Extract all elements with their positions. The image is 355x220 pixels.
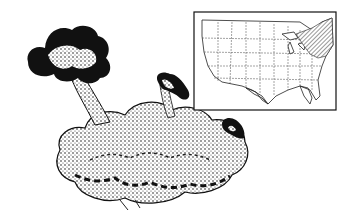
left-flower-cluster: [27, 26, 110, 84]
plant-illustration: [0, 0, 355, 220]
foliage-mass: [57, 102, 248, 210]
range-map-inset: [194, 12, 336, 110]
illustration-canvas: [0, 0, 355, 220]
